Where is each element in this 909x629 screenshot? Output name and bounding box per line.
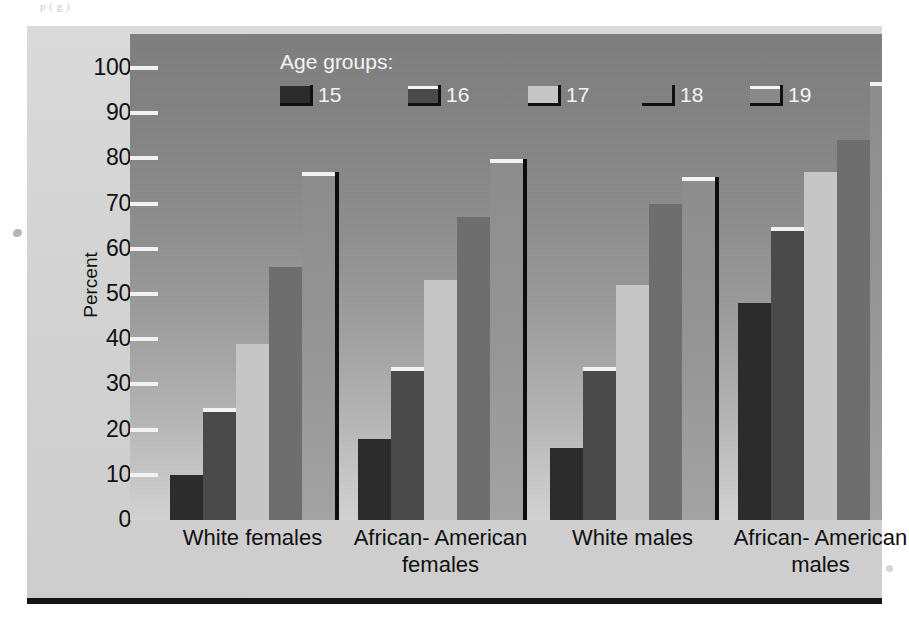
y-tick-label: 70: [65, 192, 131, 215]
x-axis-label: African- Americanfemales: [336, 524, 545, 578]
x-axis-label-line: African- American: [336, 524, 545, 551]
bar[interactable]: [269, 267, 302, 520]
bar[interactable]: [424, 280, 457, 520]
bar-right-edge: [335, 172, 339, 520]
y-tick-label: 80: [65, 146, 131, 169]
bar[interactable]: [738, 303, 771, 520]
y-tick-label: 40: [65, 327, 131, 350]
y-tick-label: 20: [65, 418, 131, 441]
bar-top-highlight: [771, 227, 804, 231]
bar[interactable]: [583, 371, 616, 520]
x-axis-label: White males: [528, 524, 737, 551]
bar[interactable]: [837, 140, 870, 520]
bar-right-edge: [523, 159, 527, 520]
bar[interactable]: [302, 176, 335, 520]
bar-group: [550, 34, 715, 520]
bar[interactable]: [771, 231, 804, 520]
y-axis-tick-labels: 0102030405060708090100: [65, 26, 131, 598]
bar[interactable]: [649, 204, 682, 520]
scan-speck-left: [13, 229, 22, 237]
bar-group: [358, 34, 523, 520]
x-axis-label-line: males: [716, 551, 909, 578]
x-axis-label: African- Americanmales: [716, 524, 909, 578]
x-axis-label-line: White females: [148, 524, 357, 551]
y-tick-label: 100: [65, 56, 131, 79]
bar-top-highlight: [203, 408, 236, 412]
bar[interactable]: [682, 181, 715, 520]
y-tick-label: 60: [65, 237, 131, 260]
x-axis-label-line: African- American: [716, 524, 909, 551]
y-tick-label: 30: [65, 372, 131, 395]
x-axis-label-line: White males: [528, 524, 737, 551]
bar-group: [738, 34, 882, 520]
bar-top-highlight: [583, 367, 616, 371]
bar[interactable]: [870, 86, 882, 520]
bar-top-highlight: [490, 159, 523, 163]
bar[interactable]: [457, 217, 490, 520]
y-tick-label: 0: [65, 508, 131, 531]
bar[interactable]: [358, 439, 391, 520]
bar-top-highlight: [391, 367, 424, 371]
bar-right-edge: [715, 177, 719, 520]
bottom-rule: [27, 598, 882, 604]
bar-top-highlight: [302, 172, 335, 176]
plot-area: Age groups: 1516171819: [130, 34, 882, 520]
bar[interactable]: [550, 448, 583, 520]
scan-artifact-top-text: p ( g ): [0, 0, 909, 12]
bar[interactable]: [804, 172, 837, 520]
y-tick-label: 50: [65, 282, 131, 305]
bar-group: [170, 34, 335, 520]
bar[interactable]: [170, 475, 203, 520]
x-axis-label: White females: [148, 524, 357, 551]
bar-top-highlight: [870, 82, 882, 86]
y-tick-label: 90: [65, 101, 131, 124]
bars-layer: [130, 34, 882, 520]
bar[interactable]: [616, 285, 649, 520]
y-tick-label: 10: [65, 463, 131, 486]
x-axis-category-labels: White femalesAfrican- AmericanfemalesWhi…: [130, 524, 882, 594]
bar[interactable]: [236, 344, 269, 520]
x-axis-label-line: females: [336, 551, 545, 578]
figure-panel: Percent 0102030405060708090100 Age group…: [27, 26, 882, 598]
bar[interactable]: [391, 371, 424, 520]
bar[interactable]: [490, 163, 523, 520]
bar-top-highlight: [682, 177, 715, 181]
bar[interactable]: [203, 412, 236, 520]
